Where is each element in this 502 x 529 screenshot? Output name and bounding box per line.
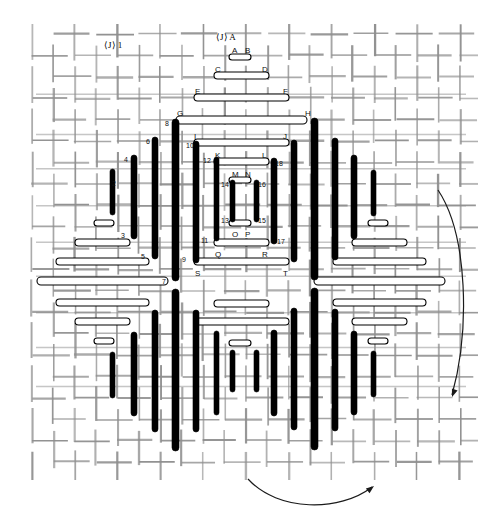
label-b: B	[245, 47, 250, 54]
mesh-grid-group	[31, 24, 478, 480]
label-m: M	[232, 171, 239, 178]
label-num-7: 7	[162, 278, 166, 285]
label-num-8: 8	[165, 120, 169, 127]
label-num-15: 15	[258, 217, 266, 224]
label-o: O	[232, 231, 238, 238]
label-num-16: 16	[258, 181, 266, 188]
label-num-5: 5	[141, 253, 145, 260]
label-j: J	[283, 133, 287, 140]
label-t: T	[283, 270, 288, 277]
label-num-11: 11	[201, 237, 208, 244]
label-num-3: 3	[121, 232, 125, 239]
label-num-9: 9	[182, 256, 186, 263]
label-s: S	[195, 270, 200, 277]
label-num-4: 4	[124, 156, 128, 163]
label-a: A	[232, 47, 237, 54]
label-num-2: 2	[112, 180, 116, 187]
label-r: R	[262, 251, 268, 258]
label-num-17: 17	[277, 238, 285, 245]
label-h: H	[305, 110, 311, 117]
label-f: F	[283, 88, 288, 95]
label-d: D	[262, 66, 268, 73]
label-n: N	[245, 171, 251, 178]
label-num-13: 13	[221, 217, 229, 224]
label-num-14: 14	[221, 181, 229, 188]
label-k: K	[215, 152, 220, 159]
label-c: C	[215, 66, 221, 73]
label-num-12: 12	[203, 157, 211, 164]
figure-canvas: ⟨J⟩ 1⟨J⟩ AABCDEFGHIJKLMNOPQRST2468101214…	[0, 0, 502, 529]
diagram-artwork	[0, 0, 502, 529]
label-i: I	[194, 133, 196, 140]
label-e: E	[195, 88, 200, 95]
label-g: G	[177, 110, 183, 117]
label-p: P	[245, 231, 250, 238]
label-l: L	[262, 152, 266, 159]
label-num-10: 10	[186, 142, 194, 149]
section-j-left: ⟨J⟩ 1	[104, 41, 122, 50]
label-num-18: 18	[275, 160, 283, 167]
section-j-top: ⟨J⟩ A	[216, 33, 236, 42]
label-num-6: 6	[146, 138, 150, 145]
label-q: Q	[215, 251, 221, 258]
